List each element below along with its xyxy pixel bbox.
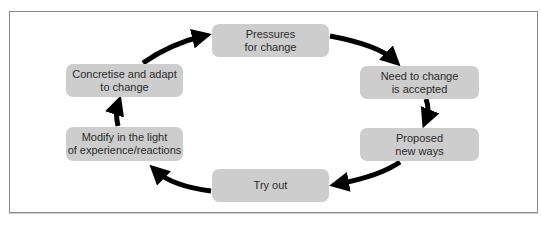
- node-label: Pressures for change: [245, 28, 297, 54]
- arrow-concretise-to-pressures: [143, 36, 203, 63]
- node-label: Try out: [254, 179, 288, 192]
- node-label: Proposed new ways: [395, 132, 443, 158]
- node-label: Need to change is accepted: [381, 70, 459, 96]
- node-label: Modify in the light of experience/reacti…: [68, 131, 182, 157]
- arrow-proposed-to-tryout: [338, 162, 400, 184]
- node-proposed-new-ways: Proposed new ways: [360, 128, 479, 161]
- node-need-to-change-accepted: Need to change is accepted: [360, 66, 479, 99]
- arrow-modify-to-concretise: [117, 104, 119, 126]
- node-modify-in-light: Modify in the light of experience/reacti…: [66, 127, 183, 161]
- node-pressures-for-change: Pressures for change: [212, 24, 329, 57]
- node-concretise-and-adapt: Concretise and adapt to change: [66, 64, 183, 97]
- arrow-pressures-to-need: [330, 36, 394, 60]
- arrow-need-to-proposed: [426, 99, 428, 120]
- node-try-out: Try out: [212, 169, 329, 202]
- arrow-tryout-to-modify: [156, 171, 211, 191]
- node-label: Concretise and adapt to change: [72, 68, 177, 94]
